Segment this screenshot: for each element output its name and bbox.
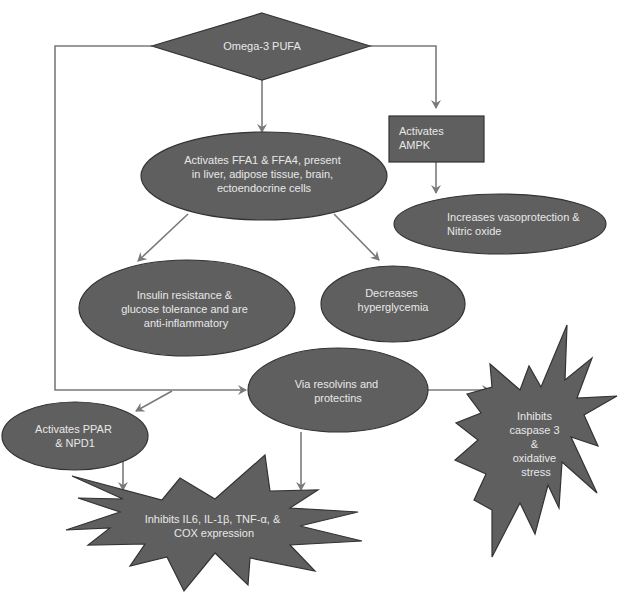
edge-ffa-to-insulin bbox=[138, 214, 188, 261]
edge-ffa-to-hyper bbox=[334, 214, 379, 260]
node-via-resolvins: Via resolvins and protectins bbox=[248, 348, 428, 432]
node-vasoprotection: Increases vasoprotection & Nitric oxide bbox=[394, 194, 606, 254]
node-omega3-label: Omega-3 PUFA bbox=[223, 40, 301, 52]
edge-omega3-to-ampk bbox=[370, 46, 436, 108]
node-activates-ampk: Activates AMPK bbox=[389, 116, 484, 162]
node-inhibits-il6: Inhibits IL6, IL-1β, TNF-α, & COX expres… bbox=[66, 455, 362, 591]
node-inhibits-caspase: Inhibits caspase 3 & oxidative stress bbox=[455, 325, 617, 557]
flowchart-canvas: Omega-3 PUFA Activates AMPK Activates FF… bbox=[0, 0, 630, 601]
node-activates-ffa: Activates FFA1 & FFA4, present in liver,… bbox=[141, 132, 387, 220]
node-decreases-hyperglycemia: Decreases hyperglycemia bbox=[321, 266, 465, 342]
node-activates-ppar: Activates PPAR & NPD1 bbox=[2, 402, 148, 470]
edge-resolvins-to-ppar bbox=[136, 391, 172, 411]
node-omega3-pufa: Omega-3 PUFA bbox=[152, 13, 370, 80]
node-insulin-resistance: Insulin resistance & glucose tolerance a… bbox=[79, 260, 295, 356]
